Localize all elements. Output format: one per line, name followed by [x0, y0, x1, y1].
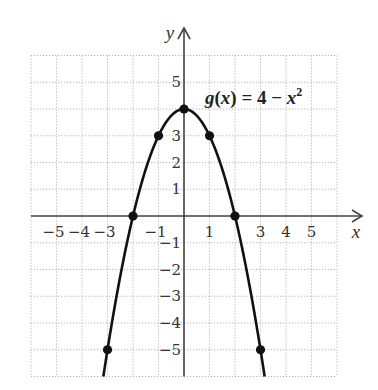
- data-point: [128, 211, 137, 220]
- x-tick-label: 3: [256, 223, 266, 241]
- data-point: [230, 211, 239, 220]
- data-point: [179, 104, 188, 113]
- x-tick-label: 4: [281, 223, 291, 241]
- x-tick-label: −4: [68, 223, 90, 241]
- y-tick-label: 5: [171, 73, 181, 91]
- x-tick-label: 5: [307, 223, 317, 241]
- function-label: g(x) = 4 − x2: [204, 85, 302, 109]
- y-axis-label: y: [164, 22, 175, 43]
- y-tick-label: 3: [171, 127, 181, 145]
- parabola-chart: −5−4−3−11345 5321−1−2−3−4−5 x y g(x) = 4…: [0, 0, 378, 390]
- axes: [31, 28, 362, 377]
- function-name: g: [204, 87, 215, 108]
- y-tick-label: −3: [159, 287, 181, 305]
- data-point: [256, 345, 265, 354]
- y-tick-label: 1: [171, 180, 181, 198]
- data-point: [154, 131, 163, 140]
- data-point: [103, 345, 112, 354]
- data-point: [205, 131, 214, 140]
- y-tick-label: −2: [159, 261, 181, 279]
- x-tick-label: −5: [42, 223, 64, 241]
- y-tick-label: 2: [171, 154, 181, 172]
- exponent: 2: [296, 85, 302, 99]
- y-tick-label: −4: [159, 314, 181, 332]
- x-tick-label: −3: [93, 223, 115, 241]
- x-axis-label: x: [351, 221, 361, 242]
- y-tick-label: −5: [159, 341, 181, 359]
- x-tick-label: 1: [205, 223, 215, 241]
- y-tick-label: −1: [159, 234, 181, 252]
